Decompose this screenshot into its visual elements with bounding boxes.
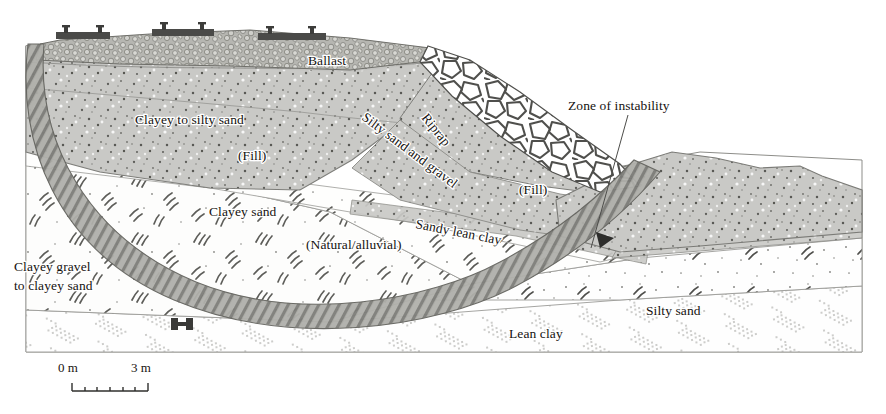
rail-post xyxy=(200,24,204,30)
rail-post xyxy=(310,28,314,34)
scale-bar-ruler xyxy=(72,383,148,391)
tie-group-1 xyxy=(56,25,110,39)
label-fill-right: (Fill) xyxy=(519,182,547,197)
rail-post xyxy=(162,24,166,30)
railway-tie xyxy=(56,32,110,39)
label-natural-alluvial: (Natural/alluvial) xyxy=(306,237,402,252)
rail-post xyxy=(268,28,272,34)
cross-section-svg: 0 m 3 m Ballast Riprap Silty sand and gr… xyxy=(0,0,886,414)
label-silty-sand: Silty sand xyxy=(646,303,701,318)
label-lean-clay: Lean clay xyxy=(509,326,563,341)
label-clayey-to-silty-sand: Clayey to silty sand xyxy=(135,112,244,127)
tie-group-3 xyxy=(258,26,326,40)
cross-section-figure: 0 m 3 m Ballast Riprap Silty sand and gr… xyxy=(0,0,886,414)
scale-bar: 0 m 3 m xyxy=(58,360,151,391)
label-clayey-gravel-line2: to clayey sand xyxy=(14,278,93,293)
rail-post xyxy=(96,25,104,27)
rail-post xyxy=(62,25,70,27)
rail-post xyxy=(308,26,316,28)
scale-bar-start-label: 0 m xyxy=(58,360,78,375)
tie-group-2 xyxy=(152,22,214,36)
rail-post xyxy=(266,26,274,28)
rail-post xyxy=(198,22,206,24)
label-clayey-gravel-line1: Clayey gravel xyxy=(14,259,91,274)
railway-tie xyxy=(258,33,326,40)
label-ballast: Ballast xyxy=(308,53,346,68)
scale-bar-end-label: 3 m xyxy=(131,360,151,375)
rail-post xyxy=(64,27,68,33)
rail-post xyxy=(160,22,168,24)
label-zone-of-instability: Zone of instability xyxy=(568,98,670,113)
label-clayey-sand: Clayey sand xyxy=(209,204,277,219)
railway-tie xyxy=(152,29,214,36)
label-fill-left: (Fill) xyxy=(238,148,266,163)
rail-post xyxy=(98,27,102,33)
